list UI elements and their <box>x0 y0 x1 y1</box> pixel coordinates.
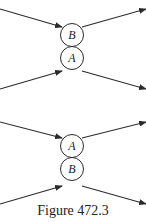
node-label: B <box>68 28 76 42</box>
top-diagram: B A <box>0 9 146 89</box>
arrow-incoming-lower <box>0 71 62 89</box>
arrow-outgoing-upper <box>82 9 146 27</box>
arrow-incoming-upper <box>0 122 62 138</box>
arrow-incoming-upper <box>0 9 62 27</box>
arrow-incoming-lower <box>0 186 62 204</box>
bottom-diagram: A B <box>0 122 146 204</box>
arrow-outgoing-lower <box>82 71 146 89</box>
arrow-outgoing-lower <box>82 186 146 204</box>
diagram-canvas: B A A B <box>0 0 146 222</box>
node-label: A <box>67 139 76 153</box>
node-label: B <box>68 162 76 176</box>
node-label: A <box>67 51 76 65</box>
figure-caption: Figure 472.3 <box>0 203 146 219</box>
arrow-outgoing-upper <box>82 122 146 138</box>
